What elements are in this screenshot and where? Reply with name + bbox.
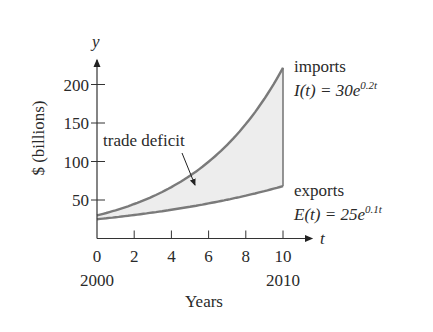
imports-formula: I(t) = 30e0.2t: [293, 79, 378, 100]
imports-formula-exponent: 0.2t: [360, 79, 378, 91]
y-tick-label: 200: [64, 76, 90, 95]
y-ticks: 50100150200: [64, 76, 106, 211]
x-axis-label: Years: [185, 292, 223, 311]
imports-formula-base: I(t) = 30e: [293, 81, 361, 100]
t-axis-symbol: t: [320, 229, 326, 248]
exports-formula-exponent: 0.1t: [365, 203, 383, 215]
y-tick-label: 50: [72, 191, 89, 210]
y-axis-label: $ (billions): [29, 100, 48, 175]
y-axis-symbol: y: [90, 32, 100, 51]
x-tick-label: 0: [93, 247, 102, 266]
exports-formula-base: E(t) = 25e: [293, 205, 365, 224]
x-tick-label: 8: [242, 247, 251, 266]
x-tick-label: 6: [204, 247, 213, 266]
x-tick-label: 4: [167, 247, 176, 266]
x-tick-label: 2: [130, 247, 139, 266]
x-tick-label: 10: [275, 247, 292, 266]
year-end-label: 2010: [266, 271, 300, 290]
exports-label: exports: [294, 181, 344, 200]
y-tick-label: 100: [64, 153, 90, 172]
chart: 0246810 50100150200 y t $ (billions) Yea…: [0, 0, 433, 332]
y-tick-label: 150: [64, 114, 90, 133]
exports-formula: E(t) = 25e0.1t: [293, 203, 383, 224]
year-start-label: 2000: [80, 271, 114, 290]
x-ticks: 0246810: [93, 231, 292, 266]
imports-label: imports: [294, 57, 346, 76]
trade-deficit-label: trade deficit: [103, 131, 185, 150]
